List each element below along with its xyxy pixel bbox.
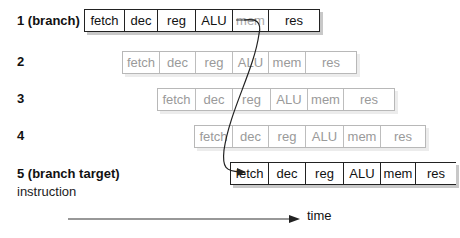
stage-dec: dec: [269, 163, 306, 184]
stage-mem: mem: [269, 52, 306, 73]
stage-dec: dec: [125, 10, 158, 31]
stage-fetch: fetch: [123, 52, 160, 73]
stage-reg: reg: [158, 10, 196, 31]
stage-dec: dec: [233, 126, 269, 147]
row-label-2: 2: [17, 54, 24, 69]
stage-res: res: [344, 89, 394, 110]
stage-mem: mem: [344, 126, 381, 147]
row-label-1: 1 (branch): [17, 13, 80, 28]
pipeline-row-2: fetch dec reg ALU mem res: [122, 51, 357, 74]
arrows-overlay: [0, 0, 460, 238]
stage-mem: mem: [233, 10, 269, 31]
stage-res: res: [381, 126, 425, 147]
stage-reg: reg: [196, 52, 233, 73]
time-axis-arrowhead: [289, 215, 300, 223]
stage-alu: ALU: [344, 163, 381, 184]
stage-fetch: fetch: [231, 163, 269, 184]
stage-alu: ALU: [196, 10, 233, 31]
stage-dec: dec: [196, 89, 233, 110]
stage-alu: ALU: [233, 52, 269, 73]
pipeline-row-1: fetch dec reg ALU mem res: [84, 9, 320, 32]
stage-fetch: fetch: [195, 126, 233, 147]
stage-res: res: [269, 10, 319, 31]
stage-mem: mem: [308, 89, 344, 110]
row-label-3: 3: [17, 91, 24, 106]
stage-dec: dec: [160, 52, 196, 73]
pipeline-row-5: fetch dec reg ALU mem res: [230, 162, 456, 185]
stage-res: res: [416, 163, 456, 184]
stage-alu: ALU: [306, 126, 344, 147]
stage-res: res: [306, 52, 356, 73]
stage-alu: ALU: [271, 89, 308, 110]
time-axis-label: time: [307, 208, 332, 223]
stage-reg: reg: [306, 163, 344, 184]
pipeline-row-4: fetch dec reg ALU mem res: [194, 125, 426, 148]
stage-reg: reg: [269, 126, 306, 147]
row-label-5: 5 (branch target): [17, 166, 120, 181]
row-label-4: 4: [17, 128, 24, 143]
stage-fetch: fetch: [85, 10, 125, 31]
pipeline-row-3: fetch dec reg ALU mem res: [157, 88, 395, 111]
stage-reg: reg: [233, 89, 271, 110]
stage-mem: mem: [381, 163, 416, 184]
stage-fetch: fetch: [158, 89, 196, 110]
row-5-sublabel: instruction: [17, 184, 76, 199]
